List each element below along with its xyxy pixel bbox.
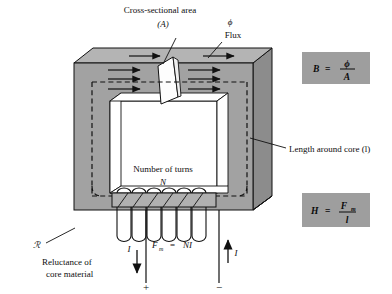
mmf-equation: F m = NI: [151, 240, 193, 252]
cross-section-label-line1: Cross-sectional area: [124, 5, 197, 15]
core-right-face: [253, 48, 272, 210]
number-of-turns-label-line2: N: [159, 177, 167, 187]
formula1-equals: =: [325, 64, 330, 74]
formula1-numerator: ϕ: [344, 59, 350, 69]
core-window-inner-bottom: [110, 186, 228, 193]
figure-canvas: Cross-sectional area (A) ϕ Flux Length a…: [0, 0, 392, 294]
mmf-NI: NI: [182, 240, 193, 250]
coil-wires-front: [117, 207, 206, 242]
formula1-denominator: A: [343, 72, 350, 82]
core-window-inner-left: [110, 93, 121, 193]
coil-band: [112, 193, 216, 207]
terminal-negative-label: −: [216, 281, 222, 293]
number-of-turns-label-line1: Number of turns: [133, 164, 193, 174]
flux-word-label: Flux: [225, 30, 242, 40]
terminal-positive-label: +: [143, 281, 149, 293]
magnetic-core-diagram: Cross-sectional area (A) ϕ Flux Length a…: [0, 0, 392, 294]
current-label-right: I: [234, 248, 239, 258]
leader-reluctance: [46, 228, 75, 243]
mmf-equals: =: [170, 240, 175, 250]
formula2-numerator-subscript: m: [351, 206, 356, 212]
coil-winding: [112, 188, 216, 242]
core-window-inner-right: [217, 93, 228, 193]
flux-symbol-label: ϕ: [228, 17, 233, 27]
length-around-core-label: Length around core (l): [289, 144, 370, 154]
formula2-equals: =: [325, 206, 330, 216]
formula1-lhs: B: [312, 64, 319, 74]
reluctance-label-line1: Reluctance of: [42, 257, 92, 267]
formula2-denominator: l: [346, 215, 349, 225]
flux-density-formula-box: B = ϕ A: [302, 52, 370, 84]
formula2-numerator: F: [340, 201, 348, 211]
mmf-F: F: [151, 240, 158, 250]
formula2-lhs: H: [310, 206, 319, 216]
reluctance-symbol-label: ℛ: [33, 240, 41, 250]
current-label-left: I: [127, 244, 132, 254]
field-intensity-formula-box: H = F m l: [302, 193, 370, 227]
cross-section-label-line2: (A): [157, 19, 169, 29]
cross-section-slab: [158, 57, 181, 104]
reluctance-label-line2: core material: [46, 269, 94, 279]
mmf-subscript: m: [159, 246, 164, 252]
